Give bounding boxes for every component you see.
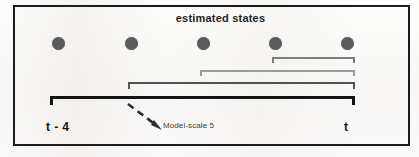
state-dot <box>52 37 65 50</box>
state-dot <box>125 37 138 50</box>
dashed-arrow-icon <box>118 98 174 136</box>
figure-canvas: estimated states Model-scale 5 t - 4 t <box>0 0 419 157</box>
bracket-model-scale-2 <box>272 57 355 64</box>
axis-label-left: t - 4 <box>46 120 69 134</box>
state-dot <box>197 37 210 50</box>
bracket-model-scale-4 <box>128 82 355 90</box>
bracket-model-scale-5 <box>50 96 355 106</box>
state-dot <box>269 37 282 50</box>
state-dot <box>341 37 354 50</box>
model-scale-annotation: Model-scale 5 <box>163 121 214 130</box>
axis-label-right: t <box>344 120 348 134</box>
bracket-model-scale-3 <box>200 70 355 77</box>
figure-title: estimated states <box>0 12 419 24</box>
